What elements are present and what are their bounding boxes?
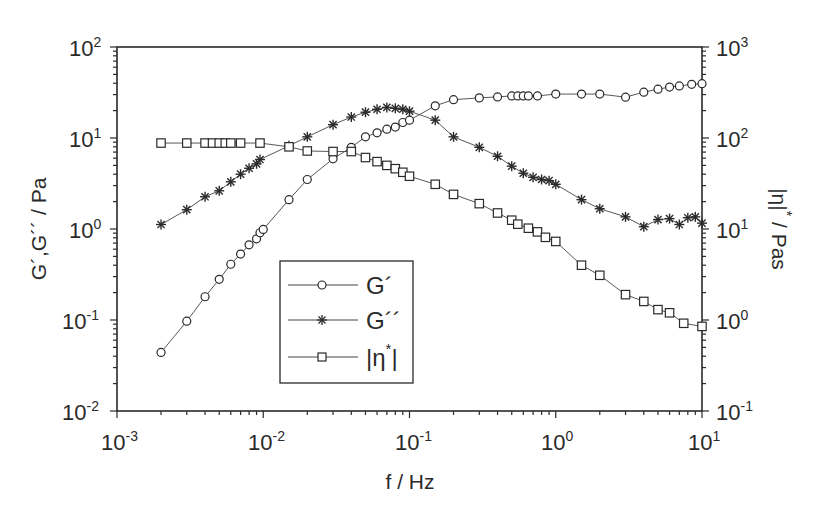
asterisk-marker [346, 112, 356, 122]
circle-marker [237, 250, 245, 258]
asterisk-marker [621, 212, 631, 222]
asterisk-marker [200, 192, 210, 202]
square-marker [577, 261, 585, 269]
y2-tick-label: 101 [716, 216, 748, 243]
square-marker [665, 309, 673, 317]
circle-marker [406, 116, 414, 124]
square-marker [533, 228, 541, 236]
circle-marker [450, 96, 458, 104]
circle-marker [698, 80, 706, 88]
asterisk-marker [537, 174, 547, 184]
square-marker [493, 209, 501, 217]
square-marker [183, 139, 191, 147]
x-tick-label: 10-3 [101, 428, 138, 455]
square-marker [514, 220, 522, 228]
legend-label: G´´ [366, 307, 401, 334]
circle-marker [215, 275, 223, 283]
asterisk-marker [577, 195, 587, 205]
asterisk-marker [430, 115, 440, 125]
asterisk-marker [156, 220, 166, 230]
asterisk-marker [493, 151, 503, 161]
circle-marker-icon [318, 281, 326, 289]
square-marker [596, 271, 604, 279]
square-marker [383, 161, 391, 169]
y-tick-label: 101 [69, 125, 101, 152]
circle-marker [373, 129, 381, 137]
legend-label: |η*| [366, 340, 398, 371]
asterisk-marker [653, 215, 663, 225]
square-marker [256, 139, 264, 147]
asterisk-marker [528, 172, 538, 182]
circle-marker [245, 241, 253, 249]
y2-tick-label: 103 [716, 34, 748, 61]
asterisk-marker [182, 205, 192, 215]
x-tick-labels: 10-3 10-2 10-1 100 101 [101, 428, 720, 455]
square-marker [431, 180, 439, 188]
circle-marker [494, 93, 502, 101]
circle-marker [596, 90, 604, 98]
asterisk-marker [214, 186, 224, 196]
asterisk-marker [507, 161, 517, 171]
square-marker [449, 190, 457, 198]
asterisk-marker [639, 222, 649, 232]
circle-marker [201, 293, 209, 301]
asterisk-marker [328, 120, 338, 130]
series-lines [161, 84, 702, 353]
asterisk-marker [683, 213, 693, 223]
square-marker [347, 147, 355, 155]
square-marker [475, 199, 483, 207]
square-marker [524, 224, 532, 232]
y2-tick-label: 102 [716, 125, 748, 152]
y-tick-label: 100 [69, 216, 101, 243]
chart: 10-3 10-2 10-1 100 101 f / Hz 102 101 10… [0, 0, 816, 513]
asterisk-marker-icon [317, 315, 327, 325]
asterisk-marker [665, 214, 675, 224]
legend: G´ G´´ |η*| [280, 261, 413, 383]
y-left-tick-labels: 102 101 100 10-1 10-2 [62, 34, 101, 425]
square-marker [552, 237, 560, 245]
circle-marker [654, 85, 662, 93]
asterisk-marker [236, 169, 246, 179]
circle-marker [533, 92, 541, 100]
y-right-tick-labels: 103 102 101 100 10-1 [716, 34, 753, 425]
square-marker [361, 153, 369, 161]
circle-marker [688, 80, 696, 88]
circle-marker [361, 133, 369, 141]
square-marker [654, 305, 662, 313]
circle-marker [391, 123, 399, 131]
asterisk-marker [697, 218, 707, 228]
y-tick-label: 10-2 [62, 398, 99, 425]
circle-marker [524, 92, 532, 100]
circle-marker [578, 90, 586, 98]
y2-tick-label: 10-1 [716, 398, 753, 425]
asterisk-marker [302, 132, 312, 142]
circle-marker [666, 83, 674, 91]
square-marker [698, 322, 706, 330]
square-marker [373, 157, 381, 165]
asterisk-marker [255, 155, 265, 165]
y-tick-label: 10-1 [62, 307, 99, 334]
circle-marker [675, 82, 683, 90]
asterisk-marker [398, 104, 408, 114]
square-marker [621, 290, 629, 298]
asterisk-marker [390, 103, 400, 113]
square-marker [303, 147, 311, 155]
circle-marker [157, 348, 165, 356]
circle-marker [640, 88, 648, 96]
asterisk-marker [405, 106, 415, 116]
square-marker [329, 147, 337, 155]
square-marker [236, 139, 244, 147]
circle-marker [383, 125, 391, 133]
asterisk-marker [674, 220, 684, 230]
circle-marker [227, 260, 235, 268]
asterisk-marker [244, 163, 254, 173]
asterisk-marker [382, 102, 392, 112]
square-marker-icon [318, 353, 326, 361]
series-markers [156, 80, 707, 357]
circle-marker [552, 90, 560, 98]
asterisk-marker [226, 177, 236, 187]
circle-marker [431, 102, 439, 110]
circle-marker [259, 225, 267, 233]
y-left-axis-title: G´,G´´ / Pa [27, 177, 50, 280]
asterisk-marker [474, 142, 484, 152]
